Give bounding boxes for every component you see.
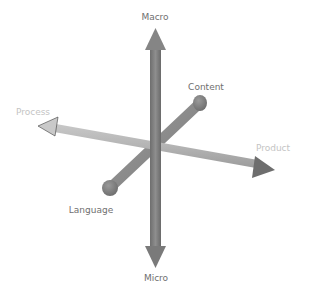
language-ball-end: [102, 180, 118, 196]
micro-label: Micro: [144, 273, 168, 283]
product-arrowhead: [252, 156, 275, 178]
process-label: Process: [16, 107, 50, 117]
language-label: Language: [69, 205, 113, 215]
process-arrowhead: [38, 117, 58, 136]
macro-label: Macro: [141, 12, 168, 22]
macro-arrowhead: [145, 28, 166, 50]
content-label: Content: [188, 82, 224, 92]
micro-arrowhead: [145, 246, 166, 268]
content-ball-end: [193, 95, 207, 111]
product-label: Product: [256, 143, 290, 153]
